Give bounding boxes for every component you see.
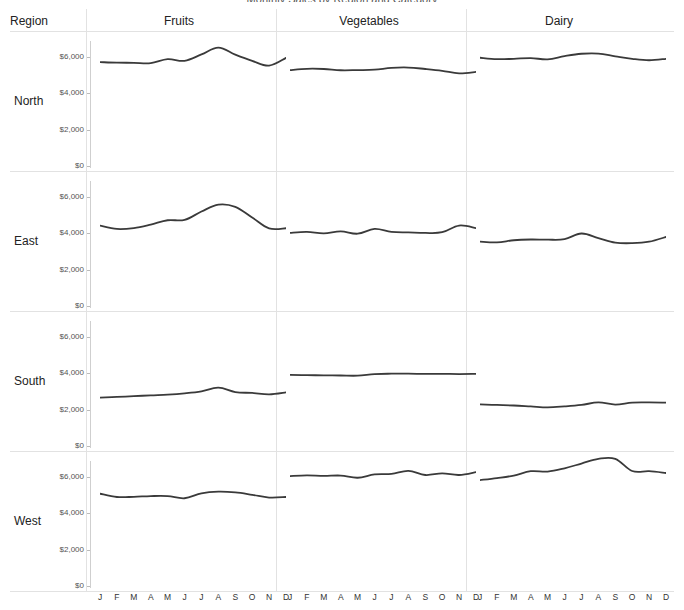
x-tick-label: S: [608, 592, 622, 602]
panel-north-fruits: [100, 31, 286, 171]
y-tick-label: $6,000: [40, 192, 84, 201]
y-tick-label: $4,000: [40, 88, 84, 97]
series-line: [100, 492, 286, 499]
y-tick-label: $4,000: [40, 368, 84, 377]
series-line: [480, 458, 666, 480]
row-label-west: West: [14, 514, 41, 528]
y-axis-spine: [90, 461, 91, 588]
x-tick-label: M: [507, 592, 521, 602]
series-line: [290, 374, 476, 376]
panel-west-vegetables: [290, 451, 476, 591]
x-tick-label: M: [317, 592, 331, 602]
panel-line-svg: [100, 451, 286, 591]
panel-line-svg: [100, 171, 286, 311]
x-tick-label: J: [384, 592, 398, 602]
y-tick-label: $0: [40, 441, 84, 450]
panel-line-svg: [290, 171, 476, 311]
y-tick-label: $2,000: [40, 405, 84, 414]
x-tick-label: J: [178, 592, 192, 602]
series-line: [100, 388, 286, 398]
panel-west-dairy: [480, 451, 666, 591]
y-axis-spine: [90, 41, 91, 168]
x-axis-line: [90, 591, 674, 592]
panel-line-svg: [290, 311, 476, 451]
x-tick-label: J: [368, 592, 382, 602]
x-tick-label: N: [642, 592, 656, 602]
panel-line-svg: [290, 451, 476, 591]
x-tick-label: N: [262, 592, 276, 602]
y-tick-label: $2,000: [40, 125, 84, 134]
series-line: [290, 471, 476, 478]
column-separator-0: [86, 9, 87, 591]
y-tick-label: $6,000: [40, 332, 84, 341]
y-tick-label: $6,000: [40, 52, 84, 61]
series-line: [480, 234, 666, 244]
column-header-fruits: Fruits: [86, 14, 272, 28]
x-tick-label: M: [127, 592, 141, 602]
x-tick-label: J: [283, 592, 297, 602]
x-tick-label: A: [591, 592, 605, 602]
x-tick-label: J: [194, 592, 208, 602]
chart-title: Monthly Sales by Region and Category: [0, 0, 684, 2]
x-tick-label: A: [524, 592, 538, 602]
series-line: [100, 204, 286, 229]
y-tick-label: $0: [40, 301, 84, 310]
y-axis-spine: [90, 321, 91, 448]
series-line: [100, 48, 286, 66]
y-tick-label: $0: [40, 161, 84, 170]
x-tick-label: M: [351, 592, 365, 602]
series-line: [480, 402, 666, 407]
panel-line-svg: [480, 171, 666, 311]
x-tick-label: M: [161, 592, 175, 602]
column-header-dairy: Dairy: [466, 14, 652, 28]
row-header-label: Region: [10, 14, 48, 28]
panel-line-svg: [100, 31, 286, 171]
x-tick-label: J: [473, 592, 487, 602]
x-tick-label: O: [435, 592, 449, 602]
x-tick-label: M: [541, 592, 555, 602]
trellis-chart: Monthly Sales by Region and Category Reg…: [0, 0, 684, 610]
y-tick-label: $4,000: [40, 228, 84, 237]
x-tick-label: F: [300, 592, 314, 602]
x-tick-label: O: [625, 592, 639, 602]
panel-south-fruits: [100, 311, 286, 451]
y-tick-label: $4,000: [40, 508, 84, 517]
panel-line-svg: [290, 31, 476, 171]
series-line: [290, 67, 476, 73]
panel-line-svg: [100, 311, 286, 451]
row-label-north: North: [14, 94, 43, 108]
x-tick-label: O: [245, 592, 259, 602]
x-tick-label: D: [659, 592, 673, 602]
x-tick-label: S: [228, 592, 242, 602]
x-tick-label: A: [211, 592, 225, 602]
x-tick-label: J: [574, 592, 588, 602]
x-tick-label: J: [558, 592, 572, 602]
y-tick-label: $2,000: [40, 545, 84, 554]
panel-south-vegetables: [290, 311, 476, 451]
x-tick-label: J: [93, 592, 107, 602]
row-label-east: East: [14, 234, 38, 248]
series-line: [290, 225, 476, 233]
panel-north-dairy: [480, 31, 666, 171]
column-header-vegetables: Vegetables: [276, 14, 462, 28]
panel-east-fruits: [100, 171, 286, 311]
panel-north-vegetables: [290, 31, 476, 171]
panel-east-vegetables: [290, 171, 476, 311]
x-tick-label: F: [490, 592, 504, 602]
panel-west-fruits: [100, 451, 286, 591]
panel-line-svg: [480, 451, 666, 591]
y-tick-label: $0: [40, 581, 84, 590]
series-line: [480, 53, 666, 60]
x-tick-label: A: [401, 592, 415, 602]
x-tick-label: F: [110, 592, 124, 602]
x-tick-label: A: [144, 592, 158, 602]
panel-south-dairy: [480, 311, 666, 451]
panel-east-dairy: [480, 171, 666, 311]
panel-line-svg: [480, 311, 666, 451]
panel-line-svg: [480, 31, 666, 171]
y-tick-label: $6,000: [40, 472, 84, 481]
y-tick-label: $2,000: [40, 265, 84, 274]
y-axis-spine: [90, 181, 91, 308]
x-tick-label: N: [452, 592, 466, 602]
x-tick-label: A: [334, 592, 348, 602]
